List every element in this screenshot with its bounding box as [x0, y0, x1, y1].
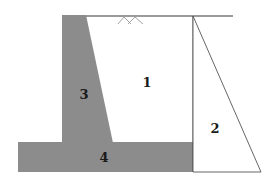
region-label-1: 1 — [142, 75, 151, 90]
wall-stem-region-3 — [62, 15, 113, 143]
region-label-3: 3 — [79, 87, 88, 102]
ground-surface-symbol-icon — [118, 17, 143, 24]
retaining-wall-diagram: 1 2 3 4 — [0, 0, 270, 183]
region-label-4: 4 — [99, 150, 108, 165]
pressure-triangle-region-2 — [193, 16, 261, 172]
region-label-2: 2 — [210, 121, 219, 136]
